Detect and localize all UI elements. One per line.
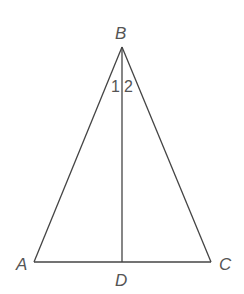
triangle-diagram	[0, 0, 244, 294]
vertex-label-d: D	[115, 272, 127, 289]
angle-label-1: 1	[111, 79, 120, 95]
segment-bc	[122, 47, 211, 262]
vertex-label-a: A	[16, 256, 27, 273]
angle-label-2: 2	[124, 79, 133, 95]
vertex-label-c: C	[219, 256, 231, 273]
segment-ab	[34, 47, 122, 262]
vertex-label-b: B	[115, 25, 126, 42]
